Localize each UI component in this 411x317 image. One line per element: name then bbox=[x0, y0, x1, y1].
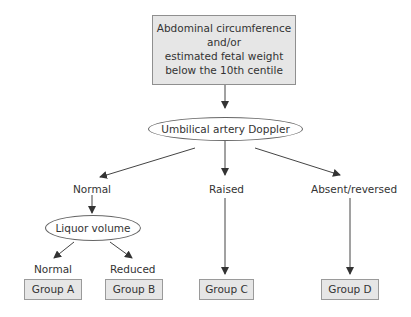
umbilical-doppler-node: Umbilical artery Doppler bbox=[148, 117, 303, 141]
group-d-box: Group D bbox=[321, 279, 379, 300]
sub-branch-reduced-label: Reduced bbox=[110, 263, 156, 275]
start-line-4: below the 10th centile bbox=[153, 63, 295, 77]
arrow-liquor-to-reduced bbox=[110, 242, 132, 258]
arrow-liquor-to-normal bbox=[54, 242, 74, 258]
group-a-box: Group A bbox=[24, 279, 82, 300]
branch-absent-reversed-label: Absent/reversed bbox=[311, 183, 397, 195]
arrow-doppler-to-absent bbox=[255, 148, 340, 175]
arrow-doppler-to-normal bbox=[100, 148, 195, 177]
group-b-box: Group B bbox=[105, 279, 163, 300]
group-c-box: Group C bbox=[199, 279, 254, 300]
start-line-3: estimated fetal weight bbox=[153, 49, 295, 63]
start-line-2: and/or bbox=[153, 35, 295, 49]
sub-branch-normal-label: Normal bbox=[34, 263, 72, 275]
start-line-1: Abdominal circumference bbox=[153, 21, 295, 35]
start-criteria-box: Abdominal circumference and/or estimated… bbox=[152, 15, 296, 85]
liquor-volume-node: Liquor volume bbox=[45, 215, 141, 241]
branch-raised-label: Raised bbox=[209, 183, 244, 195]
branch-normal-label: Normal bbox=[73, 183, 111, 195]
